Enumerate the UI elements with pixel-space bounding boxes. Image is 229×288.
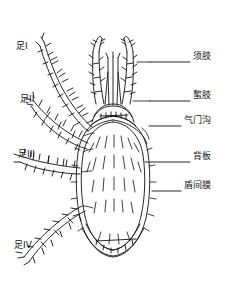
leader-lines [145, 62, 190, 191]
label-interscutal-membrane: 盾间膜 [184, 180, 211, 190]
palp-right [121, 36, 137, 104]
coxae [82, 133, 94, 208]
leg-4 [16, 206, 85, 265]
stigmal-groove-mark [139, 128, 149, 144]
palp-left [89, 36, 105, 104]
tick-drawing [0, 0, 229, 288]
leg-1 [36, 33, 93, 131]
label-dorsal-plate: 背板 [193, 151, 211, 161]
dorsal-setae [87, 135, 141, 244]
label-palp: 须肢 [193, 51, 211, 61]
idiosoma-outline [76, 116, 149, 257]
label-leg-1: 足I [16, 41, 28, 51]
label-leg-2: 足II [20, 94, 34, 104]
tick-anatomy-figure: 足I 足II 足III 足IV 须肢 螯肢 气门沟 背板 盾间膜 [0, 0, 229, 288]
label-leg-3: 足III [18, 149, 35, 159]
chelicerae [105, 52, 121, 105]
scapular-margin [88, 116, 138, 131]
label-stigmal-groove: 气门沟 [184, 115, 211, 125]
leader-connectors [133, 62, 150, 101]
capitulum-base [92, 104, 134, 122]
label-chelicera: 螯肢 [193, 90, 211, 100]
leg-2 [26, 92, 88, 150]
label-leg-4: 足IV [14, 240, 32, 250]
